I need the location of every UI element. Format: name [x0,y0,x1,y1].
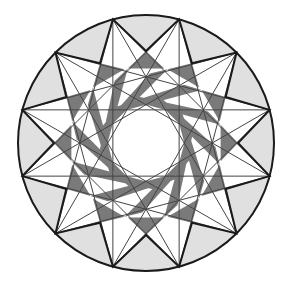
star-circle-diagram [0,0,297,289]
